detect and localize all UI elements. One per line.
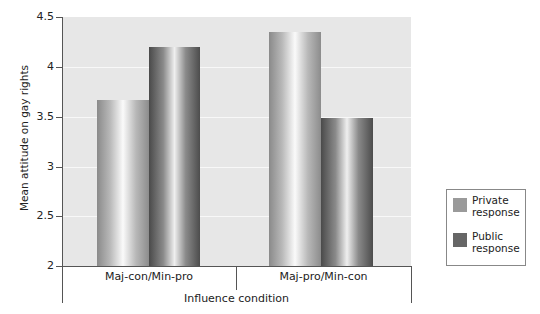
y-tick-label: 4.5	[14, 11, 54, 23]
x-axis-right-border	[411, 266, 412, 303]
legend-swatch-public	[453, 233, 467, 247]
category-label: Maj-con/Min-pro	[62, 270, 236, 283]
y-tick	[56, 266, 62, 267]
legend-swatch-private	[453, 198, 467, 212]
legend-label-private: Private response	[472, 194, 526, 218]
y-tick	[56, 167, 62, 168]
category-label: Maj-pro/Min-con	[236, 270, 411, 283]
legend-label-public: Public response	[472, 230, 526, 254]
y-tick	[56, 117, 62, 118]
plot-area	[62, 17, 411, 266]
y-axis-line	[62, 17, 63, 303]
gridline	[62, 67, 411, 68]
y-tick	[56, 216, 62, 217]
bar-public-maj-pro-min-con	[321, 118, 373, 266]
bar-public-maj-con-min-pro	[149, 47, 200, 266]
y-tick-label: 2	[14, 260, 54, 272]
y-axis-title: Mean attitude on gay rights	[18, 58, 30, 218]
bar-private-maj-pro-min-con	[269, 32, 321, 266]
y-tick	[56, 67, 62, 68]
x-axis-title: Influence condition	[62, 292, 411, 305]
bar-private-maj-con-min-pro	[97, 100, 149, 266]
legend: Private response Public response	[446, 189, 526, 266]
y-tick	[56, 17, 62, 18]
